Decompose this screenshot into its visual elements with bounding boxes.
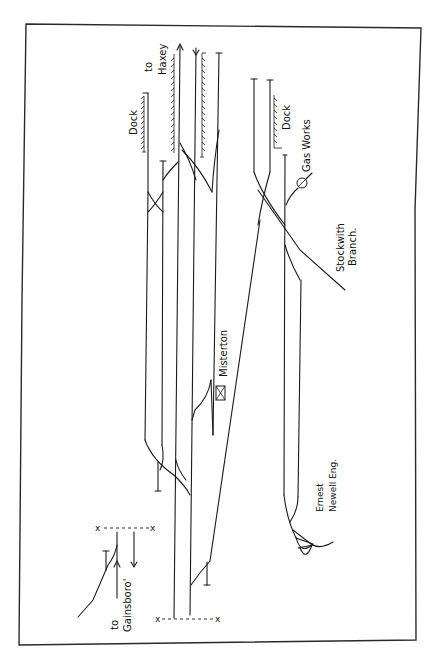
label-newell-eng: Newell Eng.	[328, 459, 338, 512]
label-gas-works: Gas Works	[301, 119, 312, 172]
left-sidings	[145, 130, 219, 445]
left-dock	[141, 93, 148, 192]
track-plan-diagram: x x x x	[0, 0, 436, 668]
lower-left-junctions	[145, 380, 213, 495]
label-gainsboro: Gainsboro'	[122, 579, 133, 632]
station-building-icon	[216, 386, 225, 400]
label-dock-left: Dock	[128, 110, 139, 135]
label-stockwith-branch: Stockwith Branch.	[335, 223, 358, 272]
label-branch: Branch.	[347, 228, 358, 266]
x-marker: x	[215, 614, 221, 624]
label-dock-right: Dock	[281, 105, 292, 130]
label-to-gainsboro: to Gainsboro'	[109, 579, 133, 632]
gas-works	[286, 173, 312, 205]
right-tracks	[251, 79, 345, 497]
label-to: to	[143, 62, 154, 72]
label-to-haxey: to Haxey	[143, 44, 168, 75]
gainsboro-lines: x x	[78, 523, 156, 617]
label-ernest: Ernest	[315, 483, 325, 512]
label-haxey: Haxey	[157, 44, 168, 75]
boundary-bottom: x x	[155, 614, 221, 624]
label-to: to	[109, 620, 120, 630]
label-stockwith: Stockwith	[335, 223, 346, 272]
platform-west	[171, 54, 174, 153]
x-marker: x	[155, 614, 161, 624]
x-marker: x	[95, 523, 101, 533]
ernest-newell-sidings	[284, 495, 333, 554]
label-ernest-newell: Ernest Newell Eng.	[315, 459, 338, 512]
platform-east	[200, 53, 206, 157]
x-marker: x	[150, 523, 156, 533]
label-misterton: Misterton	[218, 330, 229, 377]
